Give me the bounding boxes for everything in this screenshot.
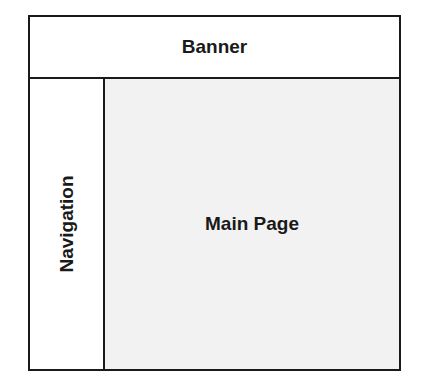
main-page-label: Main Page (205, 213, 299, 235)
navigation-label: Navigation (56, 175, 78, 272)
navigation-region: Navigation (30, 79, 105, 369)
main-page-region: Main Page (105, 79, 399, 369)
layout-frame: Banner Navigation Main Page (28, 15, 401, 371)
banner-label: Banner (182, 36, 247, 58)
banner-region: Banner (30, 17, 399, 79)
